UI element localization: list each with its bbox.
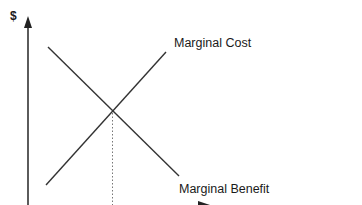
marginal-cost-benefit-diagram: $ Marginal Cost Marginal Benefit [0, 0, 362, 205]
x-axis-arrow-icon [198, 201, 210, 205]
marginal-cost-line [46, 52, 166, 185]
diagram-canvas [0, 0, 362, 205]
y-axis-label: $ [10, 9, 17, 23]
marginal-benefit-line [48, 47, 179, 176]
y-axis-arrow-icon [24, 16, 32, 28]
marginal-benefit-label: Marginal Benefit [179, 182, 269, 196]
marginal-cost-label: Marginal Cost [174, 36, 251, 50]
